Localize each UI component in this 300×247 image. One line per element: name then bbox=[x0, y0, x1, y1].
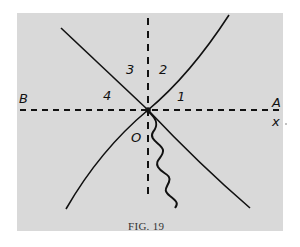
label-a: A bbox=[271, 95, 281, 110]
label-b: B bbox=[19, 91, 28, 106]
origin-point bbox=[145, 107, 151, 113]
figure-background bbox=[17, 13, 283, 231]
figure-caption: FIG. 19 bbox=[128, 220, 165, 232]
label-region-3: 3 bbox=[126, 62, 134, 77]
label-region-2: 2 bbox=[159, 62, 167, 77]
label-origin-o: O bbox=[131, 130, 141, 145]
figure-19: B A x O 1 2 3 4 FIG. 19 bbox=[0, 0, 300, 247]
label-region-4: 4 bbox=[103, 88, 111, 103]
label-x: x bbox=[271, 114, 280, 129]
diagram-canvas: B A x O 1 2 3 4 FIG. 19 bbox=[0, 0, 300, 247]
label-region-1: 1 bbox=[177, 89, 185, 104]
stray-dot bbox=[285, 123, 286, 124]
